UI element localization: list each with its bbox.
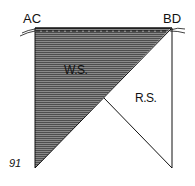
inner-fold-line [104, 98, 172, 168]
corner-label-ac: AC [23, 12, 41, 25]
region-label-right-side: R.S. [135, 92, 156, 104]
fold-diagram [0, 0, 195, 186]
region-label-wrong-side: W.S. [64, 64, 87, 76]
corner-label-bd: BD [163, 12, 181, 25]
thread-end-left [20, 31, 35, 36]
figure-number: 91 [9, 158, 21, 169]
